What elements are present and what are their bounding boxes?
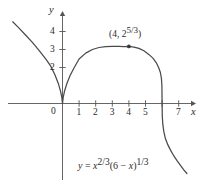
equation-label: y = x2/3(6 − x)1/3: [78, 161, 149, 171]
equation-exponent-2: 1/3: [136, 157, 148, 167]
max-point-exponent: 5/3: [126, 25, 138, 35]
x-tick-label-2: 2: [93, 108, 98, 118]
y-tick-label-4: 4: [50, 27, 55, 37]
maximum-point-label: (4, 25/3): [109, 30, 141, 40]
y-tick-label-3: 3: [50, 45, 55, 55]
x-tick-label-7: 7: [176, 108, 181, 118]
x-tick-label-4: 4: [126, 108, 131, 118]
x-tick-label-3: 3: [110, 108, 115, 118]
x-tick-label-5: 5: [143, 108, 148, 118]
x-axis-label: x: [191, 107, 196, 118]
y-tick-label-2: 2: [50, 63, 55, 73]
equation-equals: =: [82, 160, 93, 171]
function-curve: [13, 22, 187, 174]
maximum-point-marker: [127, 45, 131, 49]
equation-paren-open: (6: [110, 160, 121, 171]
x-tick-label-1: 1: [77, 108, 82, 118]
origin-label: 0: [51, 107, 56, 117]
max-point-close: ): [138, 29, 141, 39]
max-point-open: (4, 2: [109, 29, 126, 39]
equation-exponent-1: 2/3: [98, 157, 110, 167]
y-axis-label: y: [49, 5, 54, 16]
function-graph-figure: y x 0 1 2 3 4 5 7 2 3 4 (4, 25/3) y = x2…: [0, 0, 208, 187]
